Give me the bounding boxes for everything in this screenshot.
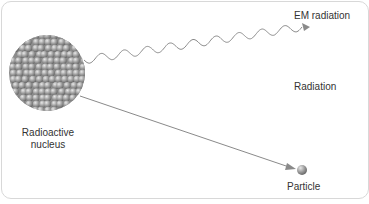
particle-trajectory: [80, 96, 292, 168]
particle-arrowhead-icon: [285, 163, 296, 170]
em-arrowhead-icon: [302, 23, 310, 31]
nucleus-label: Radioactive nucleus: [13, 127, 83, 151]
nucleus-label-line2: nucleus: [13, 139, 83, 151]
nucleus-icon: [6, 32, 88, 114]
particle-icon: [297, 165, 307, 175]
em-wave: [84, 26, 302, 64]
particle-label: Particle: [287, 181, 320, 193]
radiation-label: Radiation: [294, 81, 336, 93]
em-radiation-label: EM radiation: [294, 10, 350, 22]
nucleus-label-line1: Radioactive: [13, 127, 83, 139]
